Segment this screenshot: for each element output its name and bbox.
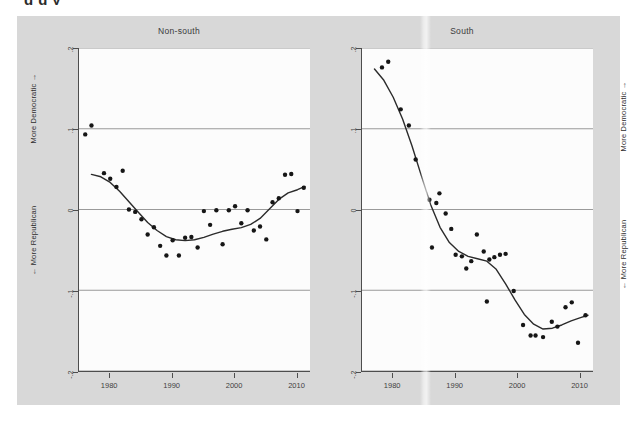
y-tick-mark [73,291,78,292]
cropped-heading-fragment: g g y [24,0,264,5]
data-point [460,254,464,258]
y-tick-label: .1 [67,128,74,154]
x-tick-label: 2000 [509,381,526,390]
data-point [245,208,249,212]
data-point [521,323,525,327]
fit-line [91,174,305,240]
panel-title-nonsouth: Non-south [44,26,314,36]
data-point [430,245,434,249]
data-point [555,324,559,328]
axis-label-more-democratic-right: More Democratic → [619,62,628,172]
data-point [434,201,438,205]
data-point [449,227,453,231]
data-point [464,266,468,270]
data-point [152,225,156,229]
data-point [550,320,554,324]
data-point [492,255,496,259]
data-point [133,210,137,214]
y-tick-mark [73,129,78,130]
panel-title-south: South [327,26,597,36]
figure-page: g g y Non-south .2.10-.1-.2 198019902000… [0,0,637,423]
panel-south: South .2.10-.1-.2 1980199020002010 [327,26,597,381]
data-point [453,253,457,257]
data-point [413,157,417,161]
y-tick-mark [356,372,361,373]
y-tick-label: .2 [67,47,74,73]
data-point [407,123,411,127]
data-point [503,252,507,256]
y-tick-label: -.2 [67,371,74,397]
y-tick-mark [73,372,78,373]
y-tick-mark [356,48,361,49]
data-point [443,211,447,215]
x-tick-label: 1990 [163,381,180,390]
data-point [469,259,473,263]
y-tick-label: 0 [350,209,357,235]
data-point [239,221,243,225]
data-point [427,198,431,202]
panel-nonsouth: Non-south .2.10-.1-.2 1980199020002010 [44,26,314,381]
data-point [121,169,125,173]
data-point [487,257,491,261]
data-point [399,107,403,111]
axis-label-more-republican-right: ← More Republican [619,200,628,310]
x-tick-label: 2000 [226,381,243,390]
plot-area-nonsouth [78,48,310,372]
data-point [295,209,299,213]
y-tick-mark [73,48,78,49]
data-point [570,300,574,304]
x-tick-mark [297,373,298,378]
x-tick-mark [234,373,235,378]
data-point [283,173,287,177]
data-point [170,238,174,242]
data-point [214,208,218,212]
data-point [302,186,306,190]
data-point [202,209,206,213]
x-tick-mark [455,373,456,378]
data-point [83,132,87,136]
y-tick-label: .1 [350,128,357,154]
data-point [164,253,168,257]
data-point [583,313,587,317]
y-tick-label: -.2 [350,371,357,397]
data-point [114,185,118,189]
data-point [183,236,187,240]
y-tick-label: 0 [67,209,74,235]
data-point [475,232,479,236]
data-point [386,60,390,64]
y-tick-mark [356,291,361,292]
x-tick-label: 2010 [288,381,305,390]
plot-area-south [361,48,593,372]
data-point [145,232,149,236]
x-tick-mark [172,373,173,378]
data-point [482,249,486,253]
y-tick-label: -.1 [350,290,357,316]
data-point [208,223,212,227]
x-tick-label: 1980 [384,381,401,390]
scatter-svg-nonsouth [79,48,310,371]
x-tick-label: 1980 [101,381,118,390]
x-tick-mark [580,373,581,378]
data-point [563,305,567,309]
data-point [139,217,143,221]
data-point [380,65,384,69]
axis-label-more-democratic-left: More Democratic → [29,54,38,164]
y-tick-mark [356,210,361,211]
data-point [177,253,181,257]
data-point [528,333,532,337]
data-point [498,253,502,257]
data-point [233,204,237,208]
data-point [277,196,281,200]
data-point [258,224,262,228]
data-point [189,235,193,239]
y-tick-label: .2 [350,47,357,73]
data-point [158,244,162,248]
data-point [220,242,224,246]
x-tick-mark [392,373,393,378]
y-tick-mark [356,129,361,130]
plot-south: .2.10-.1-.2 1980199020002010 [327,48,597,378]
data-point [576,341,580,345]
y-tick-mark [73,210,78,211]
data-point [89,123,93,127]
scatter-svg-south [362,48,593,371]
